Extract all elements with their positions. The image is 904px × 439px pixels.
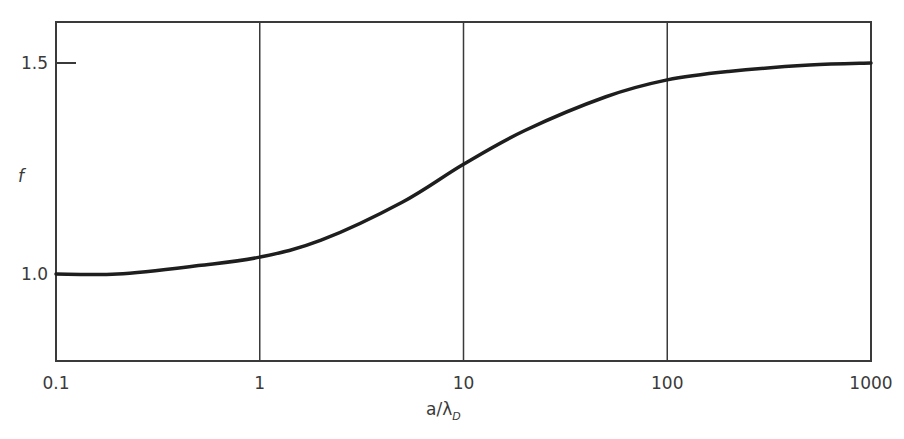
x-tick-label: 1000 (849, 373, 892, 393)
y-axis-label: f (18, 166, 27, 186)
x-tick-label: 100 (651, 373, 683, 393)
y-tick-label: 1.5 (21, 53, 48, 73)
x-axis-label-main: a/λ (426, 399, 452, 419)
gridlines (260, 22, 668, 361)
x-axis-label-subscript: D (452, 410, 460, 423)
x-axis-label: a/λD (426, 399, 461, 423)
x-tick-label: 10 (453, 373, 475, 393)
x-tick-label: 0.1 (42, 373, 69, 393)
y-ticks: 1.01.5 (21, 53, 76, 284)
x-tick-label: 1 (254, 373, 265, 393)
chart: 1.01.5 0.11101001000 f a/λD (0, 0, 904, 439)
x-tick-labels: 0.11101001000 (42, 373, 892, 393)
y-tick-label: 1.0 (21, 264, 48, 284)
